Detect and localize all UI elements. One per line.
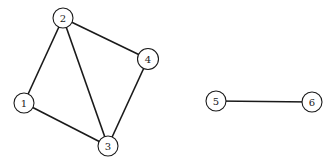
node-label: 5 bbox=[213, 96, 219, 107]
node-2: 2 bbox=[53, 8, 73, 28]
graph-diagram: 123456 bbox=[0, 0, 333, 162]
nodes-layer: 123456 bbox=[14, 8, 322, 156]
node-label: 3 bbox=[105, 141, 111, 152]
edge-1-2 bbox=[24, 18, 63, 103]
node-label: 2 bbox=[60, 13, 66, 24]
edges-layer bbox=[24, 18, 312, 146]
edge-3-4 bbox=[108, 59, 148, 146]
node-1: 1 bbox=[14, 93, 34, 113]
node-label: 1 bbox=[21, 98, 27, 109]
node-5: 5 bbox=[206, 91, 226, 111]
node-3: 3 bbox=[98, 136, 118, 156]
node-label: 6 bbox=[309, 97, 315, 108]
edge-5-6 bbox=[216, 101, 312, 102]
node-6: 6 bbox=[302, 92, 322, 112]
node-label: 4 bbox=[145, 54, 151, 65]
node-4: 4 bbox=[138, 49, 159, 70]
